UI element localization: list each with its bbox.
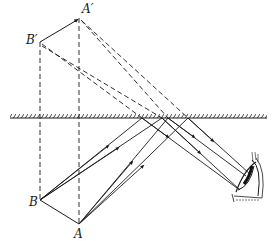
mirror-diagram: A′ B′ B A [0,0,272,241]
label-a: A [74,228,83,240]
construction-lines [40,18,79,224]
reflected-rays [142,118,250,190]
label-b: B [29,196,38,208]
diagram-canvas [0,0,272,241]
object-arrow [40,20,79,224]
eye-icon [232,152,263,202]
label-b-prime: B′ [26,34,38,46]
label-a-prime: A′ [82,3,93,15]
mirror [10,114,267,118]
virtual-rays [42,20,188,118]
incident-rays [40,118,188,224]
